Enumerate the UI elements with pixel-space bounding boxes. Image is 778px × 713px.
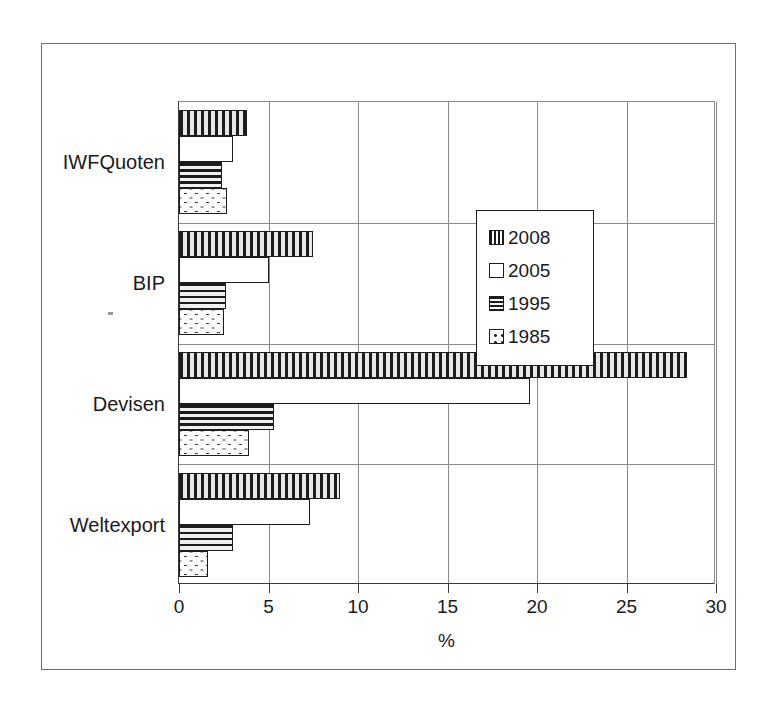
tick-mark-30 xyxy=(716,584,717,593)
tick-mark-15 xyxy=(448,584,449,593)
x-tick-label-30: 30 xyxy=(705,596,726,618)
bar-devisen-2005 xyxy=(179,378,530,404)
scan-artifact-speck xyxy=(108,312,113,315)
bar-iwfquoten-1995 xyxy=(179,162,222,188)
category-label-weltexport: Weltexport xyxy=(70,513,165,536)
x-tick-label-5: 5 xyxy=(263,596,274,618)
legend-swatch-icon-2008 xyxy=(489,230,504,245)
tick-mark-10 xyxy=(358,584,359,593)
bar-devisen-1985 xyxy=(179,430,249,456)
bar-bip-1985 xyxy=(179,309,224,335)
legend-label-2005: 2005 xyxy=(508,261,550,280)
category-separator-2 xyxy=(179,344,714,345)
tick-mark-20 xyxy=(537,584,538,593)
chart-plot-area: 051015202530 IWFQuotenBIPDevisenWeltexpo… xyxy=(178,101,715,584)
bar-iwfquoten-2008 xyxy=(179,110,247,136)
x-tick-label-20: 20 xyxy=(526,596,547,618)
gridline-x-30 xyxy=(716,102,717,584)
figure-frame: 051015202530 IWFQuotenBIPDevisenWeltexpo… xyxy=(41,43,736,670)
x-tick-label-25: 25 xyxy=(616,596,637,618)
tick-mark-0 xyxy=(179,584,180,593)
legend-label-1985: 1985 xyxy=(508,327,550,346)
bar-weltexport-2005 xyxy=(179,499,310,525)
chart-legend: 2008200519951985 xyxy=(476,210,594,366)
legend-swatch-icon-1995 xyxy=(489,296,504,311)
category-separator-3 xyxy=(179,464,714,465)
x-tick-label-15: 15 xyxy=(437,596,458,618)
bar-weltexport-1995 xyxy=(179,525,233,551)
category-separator-1 xyxy=(179,223,714,224)
x-tick-label-0: 0 xyxy=(174,596,185,618)
x-tick-label-10: 10 xyxy=(347,596,368,618)
legend-item-1995: 1995 xyxy=(489,287,587,320)
legend-item-2008: 2008 xyxy=(489,221,587,254)
category-label-bip: BIP xyxy=(133,272,165,295)
bar-bip-2005 xyxy=(179,257,269,283)
legend-label-2008: 2008 xyxy=(508,228,550,247)
bar-iwfquoten-2005 xyxy=(179,136,233,162)
legend-label-1995: 1995 xyxy=(508,294,550,313)
category-label-iwfquoten: IWFQuoten xyxy=(63,151,165,174)
x-axis-title: % xyxy=(438,630,455,652)
legend-item-2005: 2005 xyxy=(489,254,587,287)
bar-weltexport-1985 xyxy=(179,551,208,577)
bar-bip-1995 xyxy=(179,283,226,309)
bar-devisen-2008 xyxy=(179,352,687,378)
legend-swatch-icon-2005 xyxy=(489,263,504,278)
legend-swatch-icon-1985 xyxy=(489,329,504,344)
bar-iwfquoten-1985 xyxy=(179,188,227,214)
tick-mark-25 xyxy=(627,584,628,593)
bar-devisen-1995 xyxy=(179,404,274,430)
x-axis-line xyxy=(179,583,714,584)
tick-mark-5 xyxy=(269,584,270,593)
category-label-devisen: Devisen xyxy=(93,392,165,415)
bar-bip-2008 xyxy=(179,231,313,257)
legend-item-1985: 1985 xyxy=(489,320,587,353)
bar-weltexport-2008 xyxy=(179,473,340,499)
